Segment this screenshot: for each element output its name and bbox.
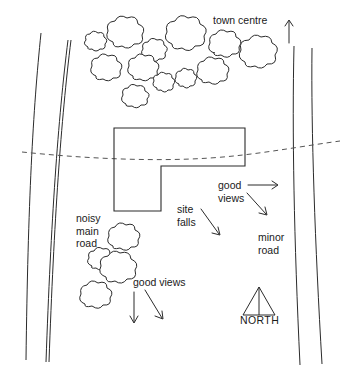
road-line-left-inner bbox=[49, 40, 71, 362]
tree-icon bbox=[165, 16, 206, 51]
diagram-canvas bbox=[0, 0, 356, 385]
tree-icon bbox=[122, 84, 150, 107]
north-compass bbox=[243, 287, 275, 315]
label-site-falls: site falls bbox=[177, 203, 196, 228]
minor-road bbox=[293, 46, 322, 365]
label-north: NORTH bbox=[240, 314, 279, 327]
tree-icon bbox=[209, 30, 241, 57]
site-falls-arrow bbox=[201, 209, 220, 235]
label-minor-road: minor road bbox=[258, 231, 284, 256]
good-views-bottom-down-right-arrow bbox=[145, 290, 163, 319]
tree-icon bbox=[80, 281, 112, 308]
label-good-views-bottom: good views bbox=[133, 276, 186, 289]
label-good-views-right: good views bbox=[218, 179, 244, 204]
upper-tree-cluster bbox=[84, 16, 277, 108]
tree-icon bbox=[107, 16, 144, 48]
site-analysis-diagram: town centre noisy main road site falls g… bbox=[0, 0, 356, 385]
tree-icon bbox=[153, 72, 175, 92]
label-town-centre: town centre bbox=[213, 14, 267, 27]
road-line-right-outer bbox=[312, 48, 322, 364]
tree-icon bbox=[175, 68, 197, 88]
label-noisy-main-road: noisy main road bbox=[76, 212, 101, 250]
tree-icon bbox=[84, 31, 106, 51]
road-line-left-outer bbox=[26, 33, 41, 360]
town-centre-arrow bbox=[285, 20, 293, 43]
good-views-right-arrow bbox=[248, 181, 278, 189]
good-views-down-right-arrow bbox=[247, 193, 267, 215]
noisy-main-road bbox=[26, 33, 71, 362]
tree-icon bbox=[197, 57, 229, 84]
road-line-right-inner bbox=[293, 46, 300, 365]
good-views-down-arrow bbox=[130, 292, 138, 323]
tree-icon bbox=[239, 35, 277, 68]
tree-icon bbox=[108, 223, 140, 250]
contour-line bbox=[22, 141, 340, 160]
tree-icon bbox=[91, 54, 122, 81]
